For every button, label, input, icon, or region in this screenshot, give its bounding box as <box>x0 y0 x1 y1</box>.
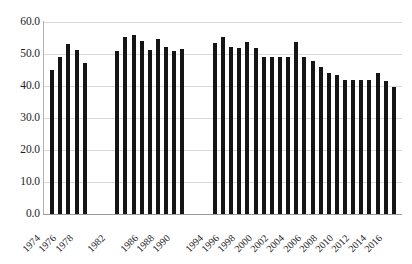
bar <box>351 80 355 214</box>
bar <box>123 37 127 214</box>
bar <box>83 63 87 214</box>
bar <box>229 47 233 214</box>
bar <box>180 49 184 214</box>
bar <box>376 73 380 214</box>
bar <box>343 80 347 214</box>
x-axis-tick-label: 2016 <box>363 233 384 254</box>
bar <box>311 61 315 214</box>
bar <box>172 51 176 214</box>
bars-layer <box>44 22 402 214</box>
x-axis-tick-label: 1982 <box>86 233 107 254</box>
bar <box>319 67 323 214</box>
bar <box>237 48 241 214</box>
bar <box>140 41 144 214</box>
bar <box>262 57 266 214</box>
bar <box>221 37 225 214</box>
bar <box>327 73 331 214</box>
bar <box>58 57 62 214</box>
bar <box>392 87 396 214</box>
bar <box>132 35 136 214</box>
bar <box>50 70 54 214</box>
bar <box>384 81 388 214</box>
bar <box>148 50 152 214</box>
y-axis-tick-label: 20.0 <box>2 144 40 156</box>
bar <box>302 57 306 214</box>
x-axis-labels: 1974197619781982198619881990199419961998… <box>44 214 402 264</box>
bar <box>213 43 217 214</box>
y-axis-tick-label: 40.0 <box>2 80 40 92</box>
bar <box>66 44 70 214</box>
y-axis-tick-label: 0.0 <box>2 208 40 220</box>
bar <box>367 80 371 214</box>
bar <box>294 42 298 214</box>
bar <box>164 47 168 214</box>
bar <box>335 75 339 214</box>
y-axis-tick-label: 50.0 <box>2 48 40 60</box>
y-axis-tick-label: 60.0 <box>2 16 40 28</box>
bar <box>254 48 258 214</box>
y-axis-labels: 60.050.040.030.020.010.00.0 <box>0 0 40 264</box>
bar-chart: 60.050.040.030.020.010.00.0 197419761978… <box>0 0 412 264</box>
x-axis-tick-label: 1990 <box>151 233 172 254</box>
bar <box>286 57 290 214</box>
bar <box>156 39 160 214</box>
x-axis-tick-label: 1978 <box>54 233 75 254</box>
bar <box>270 57 274 214</box>
bar <box>359 80 363 214</box>
bar <box>278 57 282 214</box>
bar <box>245 42 249 214</box>
bar <box>75 50 79 214</box>
y-axis-tick-label: 10.0 <box>2 176 40 188</box>
y-axis-tick-label: 30.0 <box>2 112 40 124</box>
bar <box>115 51 119 214</box>
